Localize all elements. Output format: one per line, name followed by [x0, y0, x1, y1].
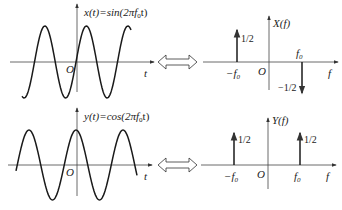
sine-label: x(t)=sin(2πf0t) — [83, 6, 148, 20]
pos-f0-label: f0 — [294, 170, 301, 184]
f-axis-label: f — [328, 67, 333, 79]
origin-label: O — [66, 63, 74, 75]
neg-f0-label: −f0 — [226, 67, 240, 81]
origin-label: O — [66, 166, 74, 178]
pos-amplitude-label: 1/2 — [304, 134, 317, 145]
pos-f0-label: f0 — [296, 47, 303, 61]
neg-f0-label: −f0 — [224, 170, 238, 184]
pos-amplitude-label: −1/2 — [278, 82, 296, 93]
cosine-spectrum-plot: Y(f) 1/2 1/2 −f0 f0 O f — [201, 114, 336, 189]
spectrum-label: X(f) — [272, 17, 290, 30]
f-axis-label: f — [326, 170, 331, 182]
sine-spectrum-plot: X(f) 1/2 −1/2 −f0 f0 O f — [203, 16, 338, 93]
neg-amplitude-label: 1/2 — [238, 134, 251, 145]
cosine-time-plot: y(t)=cos(2πf0t) O t — [8, 108, 152, 200]
fourier-transform-double-arrow — [158, 158, 197, 172]
fourier-pair-diagram: x(t)=sin(2πf0t) O t X(f) 1/2 −1/2 −f0 f0… — [0, 0, 342, 210]
spectrum-label: Y(f) — [272, 114, 289, 127]
origin-label: O — [257, 168, 265, 180]
fourier-transform-double-arrow — [158, 55, 197, 69]
cosine-label: y(t)=cos(2πf0t) — [83, 110, 150, 124]
t-axis-label: t — [144, 67, 148, 79]
origin-label: O — [258, 65, 266, 77]
sine-time-plot: x(t)=sin(2πf0t) O t — [10, 4, 154, 98]
t-axis-label: t — [144, 170, 148, 182]
neg-amplitude-label: 1/2 — [241, 33, 254, 44]
